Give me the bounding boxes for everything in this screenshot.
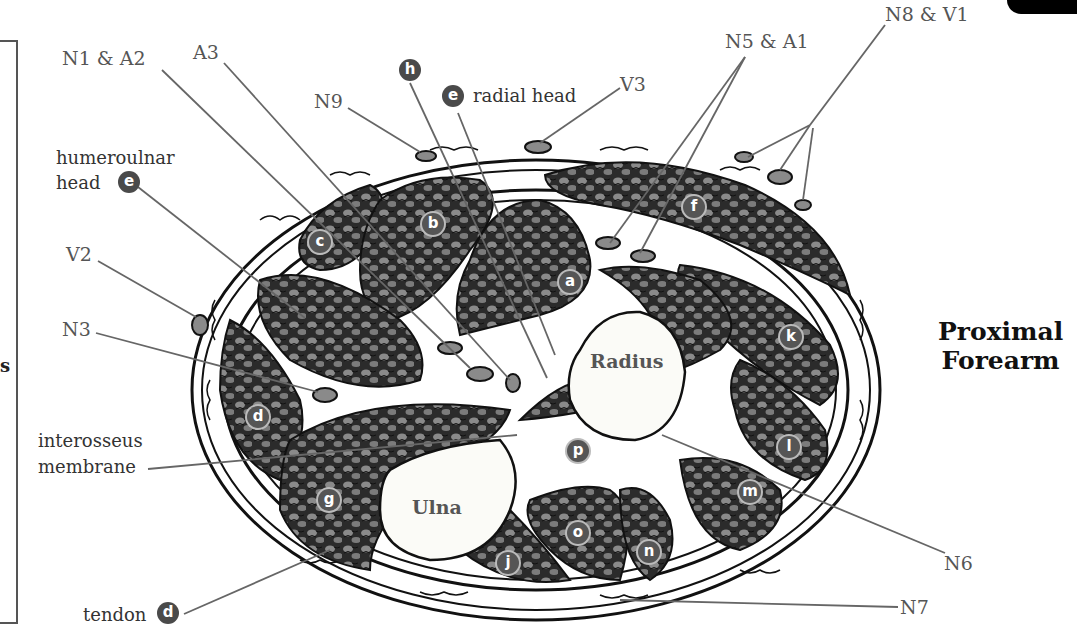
label-a3: A3 [193, 41, 219, 63]
label-n9: N9 [314, 90, 343, 112]
label-humeroulnar-line1: humeroulnar [56, 147, 175, 168]
muscle-badge-k: k [780, 326, 802, 348]
muscle-badge-p: p [567, 440, 589, 462]
title-line2: Forearm [938, 346, 1063, 375]
muscle-badge-m: m [739, 481, 761, 503]
label-n8-v1: N8 & V1 [885, 3, 969, 25]
muscle-badge-c: c [309, 231, 331, 253]
muscle-badge-l: l [778, 436, 800, 458]
label-radial-head: radial head [473, 85, 576, 106]
badge-e-humeroulnar: e [118, 171, 140, 193]
title-line1: Proximal [938, 317, 1063, 346]
label-tendon: tendon [83, 604, 146, 625]
muscle-badge-a: a [559, 271, 581, 293]
diagram-title: Proximal Forearm [938, 317, 1063, 375]
muscle-badge-o: o [567, 522, 589, 544]
label-n7: N7 [900, 596, 929, 618]
label-humeroulnar-line2: head [56, 172, 101, 193]
label-n6: N6 [944, 552, 973, 574]
label-n5-a1: N5 & A1 [725, 30, 809, 52]
badge-e-radial: e [442, 85, 464, 107]
label-n3: N3 [62, 318, 91, 340]
ulna-label: Ulna [412, 496, 462, 518]
muscle-badge-d: d [247, 406, 269, 428]
label-interosseus-line2: membrane [38, 456, 136, 477]
label-v3: V3 [620, 73, 646, 95]
badge-d-tendon: d [157, 602, 179, 624]
muscle-badge-g: g [318, 489, 340, 511]
muscle-badge-n: n [638, 541, 660, 563]
badge-h: h [399, 59, 421, 81]
label-n1-a2: N1 & A2 [62, 47, 146, 69]
label-interosseus-line1: interosseus [38, 430, 143, 451]
label-v2: V2 [66, 243, 92, 265]
muscle-badge-b: b [422, 213, 444, 235]
muscle-badge-j: j [497, 552, 519, 574]
radius-label: Radius [590, 350, 664, 372]
muscle-badge-f: f [683, 196, 705, 218]
